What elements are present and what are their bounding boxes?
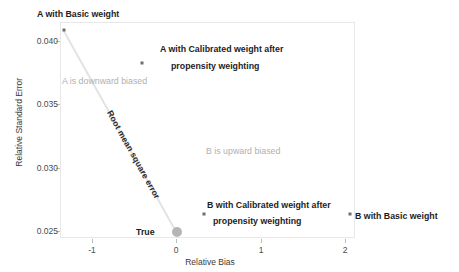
- label-b-calibrated-line1: B with Calibrated weight after: [207, 199, 331, 211]
- rmse-bias-scatter-figure: Relative Standard Error 0.040 0.035 0.03…: [0, 0, 459, 272]
- plot-panel: Root mean square error A is downward bia…: [60, 22, 355, 238]
- data-point-b-calibrated[interactable]: [203, 213, 206, 216]
- x-tick-label-2: 2: [325, 246, 365, 255]
- x-tick-label-0: 0: [156, 246, 196, 255]
- data-point-true[interactable]: [172, 227, 182, 237]
- y-tick-label-0035: 0.035: [37, 100, 58, 109]
- label-a-calibrated-line2: propensity weighting: [171, 60, 259, 72]
- x-tick-mark-1: [261, 239, 262, 243]
- annotation-b-upward-biased: B is upward biased: [206, 147, 280, 156]
- data-point-b-basic[interactable]: [349, 213, 352, 216]
- y-tick-label-0025: 0.025: [37, 227, 58, 236]
- y-tick-label-0030: 0.030: [37, 164, 58, 173]
- x-tick-label-1: 1: [241, 246, 281, 255]
- label-b-calibrated-line2: propensity weighting: [213, 215, 301, 227]
- x-axis-title: Relative Bias: [0, 258, 420, 267]
- x-tick-mark-2: [345, 239, 346, 243]
- x-tick-mark-neg1: [92, 239, 93, 243]
- rmse-line-label: Root mean square error: [105, 109, 161, 200]
- y-axis-title: Relative Standard Error: [15, 62, 24, 182]
- data-point-a-calibrated[interactable]: [141, 62, 144, 65]
- data-point-a-basic[interactable]: [63, 29, 66, 32]
- annotation-a-downward-biased: A is downward biased: [62, 77, 147, 86]
- x-tick-label-neg1: -1: [72, 246, 112, 255]
- y-tick-label-0040: 0.040: [37, 37, 58, 46]
- label-true-point: True: [136, 226, 155, 238]
- label-a-basic: A with Basic weight: [37, 8, 119, 20]
- label-b-basic: B with Basic weight: [355, 210, 438, 222]
- label-a-calibrated-line1: A with Calibrated weight after: [160, 43, 283, 55]
- x-tick-mark-0: [176, 239, 177, 243]
